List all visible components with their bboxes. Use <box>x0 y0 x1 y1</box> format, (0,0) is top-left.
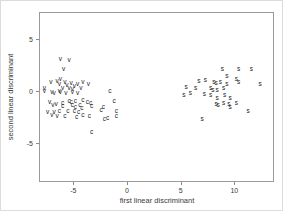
y-tick-mark <box>36 91 39 92</box>
y-tick-label: -5 <box>27 140 33 147</box>
data-point-s: s <box>189 90 192 97</box>
data-point-s: s <box>225 72 228 79</box>
y-tick-mark <box>36 39 39 40</box>
data-point-s: s <box>200 116 203 123</box>
data-point-s: s <box>209 92 212 99</box>
data-point-c: c <box>88 113 91 120</box>
data-point-c: c <box>100 107 103 114</box>
data-point-c: c <box>108 88 111 95</box>
data-point-v: v <box>49 79 52 86</box>
data-point-v: v <box>62 66 65 73</box>
data-point-v: v <box>50 112 53 119</box>
data-point-s: s <box>221 66 224 73</box>
data-point-s: s <box>235 99 238 106</box>
data-point-v: v <box>59 56 62 63</box>
data-point-s: s <box>217 102 220 109</box>
data-point-c: c <box>106 115 109 122</box>
y-tick-label: 5 <box>29 36 33 43</box>
lda-scatter-figure: vvvvvvvvvvvvvvvvvvvvvvvvvvvvvvvvvvcccccc… <box>0 0 283 211</box>
data-point-s: s <box>250 66 253 73</box>
data-point-c: c <box>90 129 93 136</box>
data-point-v: v <box>59 89 62 96</box>
x-tick-mark <box>127 182 128 185</box>
data-point-c: c <box>66 108 69 115</box>
x-tick-label: 5 <box>179 187 183 194</box>
data-point-v: v <box>79 85 82 92</box>
data-point-s: s <box>184 84 187 91</box>
data-point-v: v <box>43 88 46 95</box>
data-point-v: v <box>52 90 55 97</box>
x-tick-label: 0 <box>125 187 129 194</box>
data-point-v: v <box>71 89 74 96</box>
data-point-c: c <box>75 114 78 121</box>
data-point-c: c <box>90 103 93 110</box>
x-tick-mark <box>181 182 182 185</box>
data-point-c: c <box>61 103 64 110</box>
x-tick-mark <box>234 182 235 185</box>
y-tick-mark <box>36 143 39 144</box>
data-point-s: s <box>203 91 206 98</box>
data-point-v: v <box>87 81 90 88</box>
data-point-s: s <box>258 81 261 88</box>
x-tick-label: -5 <box>70 187 76 194</box>
data-point-s: s <box>197 78 200 85</box>
data-point-s: s <box>204 77 207 84</box>
data-point-c: c <box>115 108 118 115</box>
x-tick-label: 10 <box>230 187 238 194</box>
data-point-s: s <box>225 81 228 88</box>
data-point-s: s <box>237 79 240 86</box>
data-point-c: c <box>58 108 61 115</box>
data-point-s: s <box>237 66 240 73</box>
data-point-c: c <box>63 113 66 120</box>
y-axis-label: second linear discriminant <box>7 54 15 141</box>
data-point-v: v <box>46 109 49 116</box>
data-point-s: s <box>228 104 231 111</box>
data-point-c: c <box>81 96 84 103</box>
x-axis-label: first linear discriminant <box>120 197 195 205</box>
data-point-s: s <box>194 85 197 92</box>
data-point-v: v <box>67 57 70 64</box>
data-point-c: c <box>81 112 84 119</box>
data-point-c: c <box>112 97 115 104</box>
data-point-s: s <box>222 99 225 106</box>
y-tick-label: 0 <box>29 88 33 95</box>
x-tick-mark <box>73 182 74 185</box>
data-point-s: s <box>182 92 185 99</box>
data-point-s: s <box>247 108 250 115</box>
